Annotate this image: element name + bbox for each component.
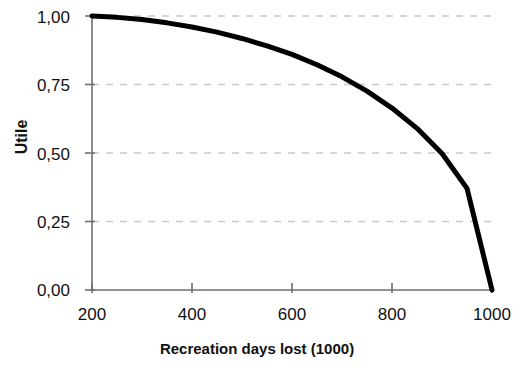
- x-axis-title: Recreation days lost (1000): [0, 340, 514, 357]
- tick-marks-group: [85, 16, 492, 293]
- chart-container: Utile 1,00 0,75 0,50 0,25 0,00 200 400 6…: [0, 0, 514, 368]
- plot-area: [0, 0, 514, 368]
- gridlines-group: [92, 16, 492, 222]
